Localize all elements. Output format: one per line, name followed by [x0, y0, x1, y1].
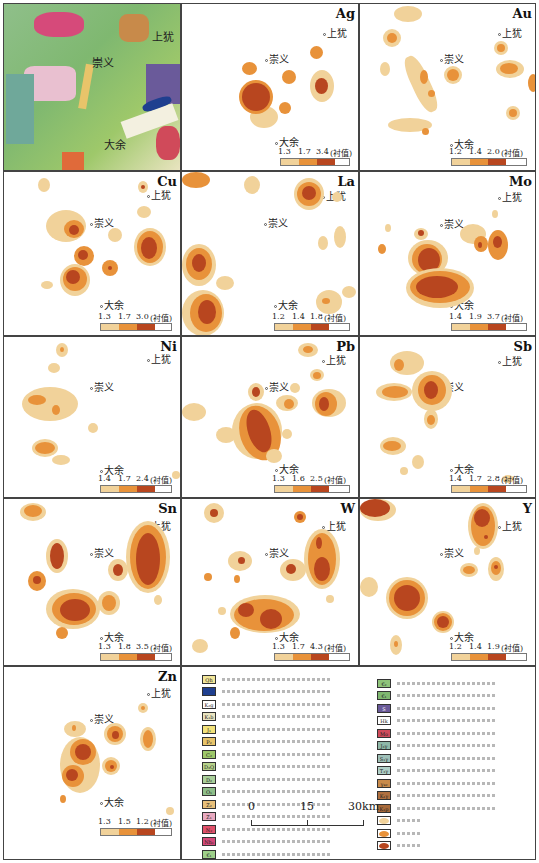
scale-mid-tick [307, 820, 308, 826]
anomaly-zone [310, 46, 323, 59]
legend-item: S₁γ [377, 752, 497, 765]
anomaly-zone [244, 176, 260, 194]
legend-swatch: C₂ [202, 750, 216, 759]
legend-item: €₁ [202, 848, 332, 860]
element-label: Sn [158, 501, 177, 516]
anomaly-zone [383, 441, 401, 451]
legend-swatch: T₃γ [377, 766, 391, 775]
anomaly-zone [494, 565, 498, 569]
anomaly-zone [136, 533, 160, 585]
anomaly-zone [252, 387, 260, 397]
legend-swatch: D₂ [202, 775, 216, 784]
legend-item: J₃γ [377, 740, 497, 753]
legend-item: Qh [202, 673, 332, 686]
threshold-legend: 1.21.41.8(衬值) [274, 312, 350, 331]
legend-item: γ₄₂ [377, 777, 497, 790]
threshold-legend: 1.31.73.0(衬值) [100, 312, 172, 331]
legend-text-illegible [397, 769, 497, 772]
legend-swatch: Mo [377, 729, 391, 738]
anomaly-zone [474, 509, 490, 527]
anomaly-zone [322, 298, 330, 304]
legend-swatch: N₂ [202, 825, 216, 834]
anomaly-zone [60, 599, 90, 621]
legend-text-illegible [222, 678, 332, 681]
legend-text-illegible [222, 703, 332, 706]
legend-right-column: €₂ €₁ S Hk Mo J₃γ S₁γ T₃γ γ₄₂ K₁γ K₁p [377, 677, 497, 852]
anomaly-zone [141, 185, 145, 189]
map-panel-mo: Mo 上犹 崇义 大余 1.41.93.7(衬值) [359, 171, 536, 336]
anomaly-zone [141, 706, 145, 710]
anomaly-zone [154, 595, 162, 605]
map-panel-cu: Cu 上犹 崇义 大余 1.31.73.0(衬值) [3, 171, 181, 336]
anomaly-zone [279, 102, 291, 114]
town-shangyou: 上犹 [323, 25, 347, 40]
anomaly-zone [332, 192, 342, 202]
anomaly-zone [509, 109, 517, 117]
legend-swatch: K₁γ [377, 791, 391, 800]
legend-text-illegible [222, 790, 332, 793]
legend-item: O₁ [202, 786, 332, 799]
anomaly-zone [380, 62, 390, 76]
anomaly-zone [474, 547, 480, 555]
town-chongyi: 崇义 [265, 51, 289, 66]
legend-item [202, 686, 332, 699]
anomaly-zone [424, 381, 438, 399]
element-label: Sb [514, 339, 532, 354]
element-label: La [337, 174, 355, 189]
legend-text-illegible [397, 732, 497, 735]
anomaly-zone [428, 90, 435, 97]
anomaly-zone [387, 33, 397, 43]
anomaly-zone [492, 210, 498, 218]
threshold-legend: 1.31.73.4(衬值) [280, 147, 350, 166]
anomaly-zone [427, 415, 435, 425]
anomaly-zone [385, 224, 391, 232]
legend-item: C₂ [202, 748, 332, 761]
anomaly-zone [216, 276, 234, 290]
town-shangyou: 上犹 [147, 351, 171, 366]
town-shangyou: 上犹 [498, 189, 522, 204]
outer-zone-swatch [377, 816, 391, 825]
anomaly-zone [113, 564, 123, 576]
threshold-legend: 1.31.74.3(衬值) [274, 642, 350, 661]
anomaly-zone [102, 595, 116, 611]
anomaly-zone [382, 386, 408, 398]
map-panel-au: Au 上犹 崇义 大余 1.21.42.0(衬值) [359, 3, 536, 171]
legend-swatch: J₃γ [377, 741, 391, 750]
legend-text-illegible [222, 715, 332, 718]
anomaly-zone [416, 276, 458, 298]
anomaly-zone [66, 270, 80, 284]
map-panel-w: W 上犹 崇义 大余 1.31.74.3(衬值) [181, 498, 359, 666]
anomaly-zone [318, 236, 328, 250]
town-shangyou: 上犹 [498, 353, 522, 368]
anomaly-zone [360, 499, 390, 517]
legend-text-illegible [397, 782, 497, 785]
town-shangyou: 上犹 [498, 518, 522, 533]
town-dayu: 大余 [104, 136, 126, 152]
element-label: Ag [336, 6, 355, 21]
legend-item: €₁ [377, 690, 497, 703]
anomaly-zone [400, 53, 442, 115]
distance-scale-bar: 0 15 30km [248, 800, 368, 840]
anomaly-zone [326, 595, 334, 603]
anomaly-zone [478, 242, 482, 248]
anomaly-zone [342, 286, 356, 298]
anomaly-zone [238, 603, 254, 617]
anomaly-zone [204, 573, 212, 581]
legend-text-illegible [397, 844, 421, 847]
anomaly-zone [210, 509, 218, 517]
town-chongyi: 崇义 [90, 545, 114, 560]
town-shangyou: 上犹 [147, 685, 171, 700]
legend-item: D₂ [202, 773, 332, 786]
town-shangyou: 上犹 [152, 28, 174, 44]
anomaly-zone [60, 795, 66, 803]
legend-item: K₁b [202, 711, 332, 724]
anomaly-zone [182, 172, 210, 188]
legend-swatch: O₁ [202, 787, 216, 796]
legend-text-illegible [397, 757, 497, 760]
town-chongyi: 崇义 [92, 54, 114, 70]
legend-text-illegible [397, 807, 497, 810]
anomaly-zone [50, 543, 64, 569]
anomaly-zone [394, 359, 404, 371]
map-panel-zn: Zn 上犹 崇义 大余 1.31.51.2(衬值) [3, 666, 181, 860]
legend-swatch: Z₂ [202, 800, 216, 809]
